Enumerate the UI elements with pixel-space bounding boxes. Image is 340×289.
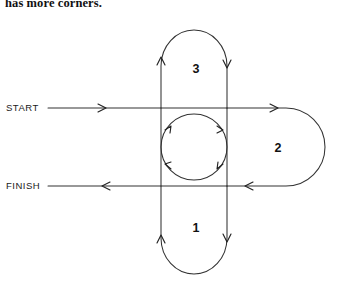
region-2-label: 2 xyxy=(275,141,282,155)
region-1-label: 1 xyxy=(193,221,200,235)
figure-canvas: has more corners. xyxy=(0,0,340,289)
central-circle xyxy=(161,114,227,180)
start-label: START xyxy=(6,102,39,113)
loop-diagram-svg: START FINISH 3 2 1 xyxy=(0,0,340,289)
region-3-label: 3 xyxy=(193,62,200,76)
finish-label: FINISH xyxy=(6,180,40,191)
